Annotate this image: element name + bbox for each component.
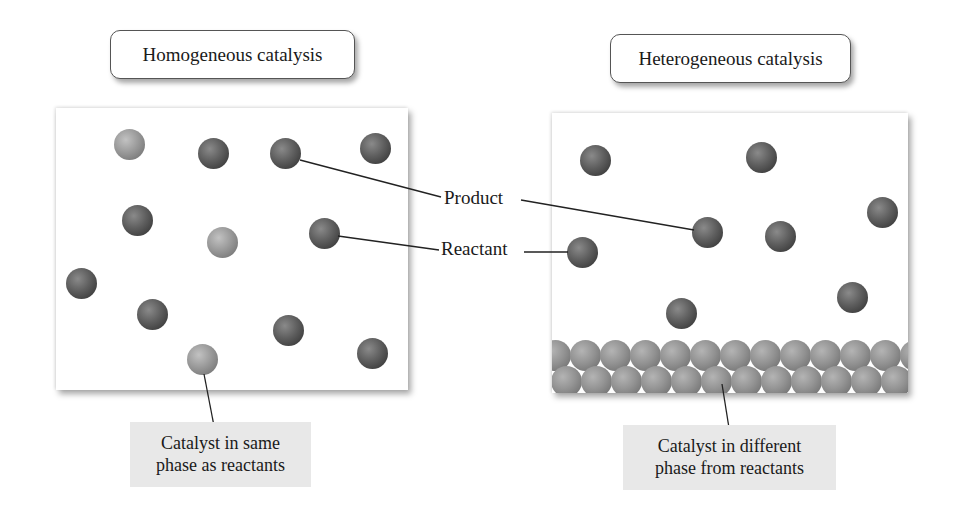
catalyst-atom (791, 366, 822, 393)
heterogeneous-title-text: Heterogeneous catalysis (638, 48, 822, 70)
molecule-sphere (273, 315, 304, 346)
molecule-sphere (137, 299, 168, 330)
product-label: Product (442, 187, 505, 209)
catalyst-atom (851, 366, 882, 393)
catalyst-atom (761, 366, 792, 393)
catalyst-atom (821, 366, 852, 393)
catalyst-atom (611, 366, 642, 393)
product-sphere (270, 138, 301, 169)
homogeneous-title: Homogeneous catalysis (110, 30, 355, 79)
homogeneous-caption-line1: Catalyst in same (130, 432, 311, 454)
catalyst-atom (701, 366, 732, 393)
homogeneous-title-text: Homogeneous catalysis (143, 44, 323, 66)
heterogeneous-panel (552, 113, 908, 393)
molecule-sphere (198, 138, 229, 169)
catalyst-atom (581, 366, 612, 393)
heterogeneous-caption-line1: Catalyst in different (623, 435, 836, 457)
homogeneous-caption-line2: phase as reactants (130, 454, 311, 476)
reactant-sphere (309, 218, 340, 249)
molecule-sphere (357, 338, 388, 369)
molecule-sphere (122, 205, 153, 236)
heterogeneous-caption-line2: phase from reactants (623, 457, 836, 479)
heterogeneous-caption: Catalyst in different phase from reactan… (623, 425, 836, 490)
catalyst-sphere (114, 129, 145, 160)
molecule-sphere (360, 133, 391, 164)
catalyst-atom (881, 366, 908, 393)
catalyst-surface (552, 113, 908, 393)
molecule-sphere (66, 268, 97, 299)
heterogeneous-title: Heterogeneous catalysis (610, 34, 851, 83)
catalyst-atom (671, 366, 702, 393)
catalyst-sphere (187, 344, 218, 375)
homogeneous-caption: Catalyst in same phase as reactants (130, 422, 311, 487)
catalyst-atom (731, 366, 762, 393)
catalyst-sphere (207, 227, 238, 258)
reactant-label: Reactant (439, 238, 509, 260)
homogeneous-panel (56, 108, 408, 390)
catalyst-atom (641, 366, 672, 393)
catalyst-atom (552, 366, 582, 393)
